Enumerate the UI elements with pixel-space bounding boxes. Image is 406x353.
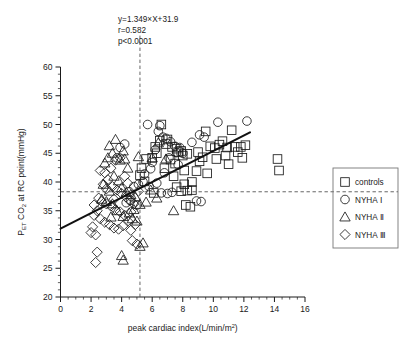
data-point-square	[192, 167, 201, 176]
data-point-square	[224, 160, 233, 169]
data-point-square	[227, 126, 236, 135]
data-point-diamond	[86, 228, 96, 238]
legend-label: controls	[355, 178, 384, 187]
y-tick-label: 40	[43, 177, 53, 187]
data-point-circle	[146, 164, 155, 173]
data-point-triangle	[110, 134, 120, 143]
data-point-square	[221, 151, 230, 160]
data-point-square	[203, 169, 212, 178]
x-tick-label: 6	[150, 304, 155, 314]
legend-marker-diamond	[340, 229, 350, 239]
y-tick-label: 20	[43, 292, 53, 302]
legend-label: NYHA Ⅱ	[355, 213, 384, 222]
data-point-circle	[243, 117, 252, 126]
data-point-square	[273, 155, 282, 164]
legend-marker-square	[341, 178, 350, 187]
legend-marker-triangle	[340, 212, 350, 221]
data-point-square	[275, 166, 284, 175]
scatter-plot-figure: 2025303540455055600246810121416y=1.349×X…	[0, 0, 406, 353]
x-tick-label: 12	[239, 304, 249, 314]
x-tick-label: 4	[119, 304, 124, 314]
legend-marker-circle	[341, 195, 350, 204]
x-tick-label: 0	[58, 304, 63, 314]
annotation-r-value: r=0.582	[118, 26, 146, 35]
data-point-circle	[188, 138, 197, 147]
y-tick-label: 55	[43, 91, 53, 101]
legend-label: NYHA Ⅲ	[355, 231, 386, 240]
y-tick-label: 45	[43, 148, 53, 158]
data-point-triangle	[168, 206, 178, 215]
y-tick-label: 60	[43, 62, 53, 72]
y-tick-label: 25	[43, 263, 53, 273]
x-tick-label: 16	[300, 304, 310, 314]
annotation-equation: y=1.349×X+31.9	[118, 15, 179, 24]
chart-canvas: 2025303540455055600246810121416y=1.349×X…	[0, 0, 406, 353]
y-axis-label: PET CO2 at RC point(mmHg)	[16, 128, 27, 236]
data-point-circle	[214, 118, 223, 127]
data-point-square	[212, 155, 221, 164]
y-tick-label: 35	[43, 206, 53, 216]
data-point-diamond	[100, 168, 110, 178]
x-tick-label: 14	[270, 304, 280, 314]
y-tick-label: 30	[43, 235, 53, 245]
data-point-triangle	[141, 197, 151, 206]
x-tick-label: 2	[89, 304, 94, 314]
legend-label: NYHA Ⅰ	[355, 196, 382, 205]
data-point-circle	[143, 120, 152, 129]
data-point-diamond	[92, 247, 102, 257]
annotation-p-value: p<0.0001	[118, 37, 153, 46]
x-tick-label: 10	[209, 304, 219, 314]
data-point-diamond	[91, 257, 101, 267]
x-axis-label: peak cardiac index(L/min/m2)	[128, 323, 238, 333]
x-tick-label: 8	[180, 304, 185, 314]
y-tick-label: 50	[43, 120, 53, 130]
